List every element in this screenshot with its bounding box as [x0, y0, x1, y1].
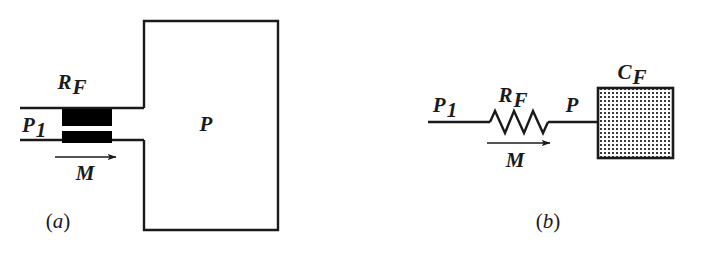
panel-a-group: RF P1 M P (a): [20, 21, 278, 233]
label-inlet-pressure-b: P1: [432, 93, 457, 122]
restriction-block-lower: [62, 131, 112, 143]
capacitor-block: [598, 88, 673, 158]
restriction-block-upper: [62, 109, 112, 126]
label-node-pressure: P: [565, 93, 579, 117]
panel-caption-b: (b): [536, 209, 561, 233]
panel-caption-a: (a): [46, 209, 71, 233]
label-inlet-pressure-a: P1: [21, 113, 46, 142]
figure-container: RF P1 M P (a): [0, 0, 701, 257]
label-resistance-b: RF: [497, 83, 527, 112]
label-chamber-pressure: P: [199, 112, 213, 136]
label-mass-flow-a: M: [75, 161, 96, 185]
panel-b-group: P1 RF P CF M (b): [428, 60, 673, 233]
label-restriction-a: RF: [56, 70, 86, 99]
label-capacitance: CF: [617, 60, 646, 89]
schematic-svg: RF P1 M P (a): [0, 0, 701, 257]
resistor-zigzag: [490, 111, 548, 133]
label-mass-flow-b: M: [505, 148, 526, 172]
